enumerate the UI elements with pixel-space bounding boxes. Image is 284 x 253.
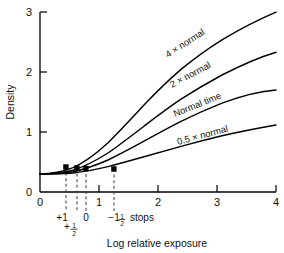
stops-scale-labels: +1 + 1 2 0 −1 1 2 stops	[56, 212, 154, 237]
curves-group	[40, 12, 276, 174]
chart-canvas: 3 2 1 0 0 1 2 3 4	[0, 0, 284, 253]
x-tick-label-1: 1	[96, 196, 102, 208]
x-tick-label-0: 0	[37, 196, 43, 208]
x-tick-label-4: 4	[273, 196, 279, 208]
marker-minus-1-half	[111, 166, 116, 171]
y-tick-label-2: 2	[26, 66, 32, 78]
marker-plus-half	[74, 165, 79, 170]
x-tick-label-3: 3	[214, 196, 220, 208]
y-tick-label-1: 1	[26, 126, 32, 138]
characteristic-curve-figure: 3 2 1 0 0 1 2 3 4	[0, 0, 284, 253]
stops-label-stops-word: stops	[130, 212, 154, 223]
x-tick-label-2: 2	[155, 196, 161, 208]
y-tick-label-0: 0	[26, 186, 32, 198]
y-tick-label-3: 3	[26, 6, 32, 18]
stops-label-half-denominator: 2	[72, 230, 76, 237]
curve-2x-normal	[40, 52, 276, 174]
stops-label-minus-one: −1	[108, 212, 120, 223]
stops-label-minus-half-numerator: 1	[120, 213, 124, 220]
curve-4x-normal	[40, 12, 276, 174]
stops-label-plus-sign: +	[64, 221, 70, 232]
marker-zero	[83, 166, 88, 171]
y-axis-title: Density	[4, 84, 16, 120]
stops-label-zero: 0	[83, 212, 89, 223]
axes-group	[40, 12, 276, 192]
marker-plus-1	[63, 164, 68, 169]
curve-label-0-5x-normal: 0.5 × normal	[176, 123, 229, 147]
stops-label-half-numerator: 1	[72, 222, 76, 229]
x-axis-title: Log relative exposure	[107, 237, 208, 249]
stops-label-minus-half-denominator: 2	[120, 220, 124, 227]
